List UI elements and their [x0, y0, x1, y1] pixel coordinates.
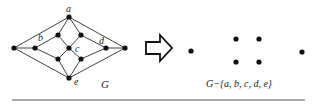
isolated-vertex — [299, 49, 304, 54]
isolated-vertex — [233, 59, 238, 64]
vertex-c — [66, 45, 71, 50]
isolated-vertex — [188, 48, 193, 53]
vertex-upper-left — [55, 32, 60, 37]
isolated-vertex — [233, 36, 238, 41]
label-c: c — [75, 43, 80, 54]
vertex-lower-left — [55, 56, 60, 61]
vertex-a — [66, 14, 71, 19]
caption-g-minus-set: G−{a, b, c, d, e} — [206, 78, 272, 89]
vertex-lower-right — [78, 56, 83, 61]
graph-g-minus-vertices — [188, 36, 304, 64]
label-b: b — [38, 32, 43, 43]
isolated-vertex — [256, 36, 261, 41]
caption-g: G — [101, 78, 109, 90]
vertex-b — [32, 45, 37, 50]
vertex-right-outer — [122, 45, 127, 50]
vertex-e — [66, 75, 71, 80]
label-e: e — [74, 76, 79, 87]
graph-deletion-diagram: a b c d e G G−{a, b, c, d, e} — [0, 0, 315, 106]
vertex-d — [103, 45, 108, 50]
vertex-left-outer — [11, 45, 16, 50]
isolated-vertex — [256, 59, 261, 64]
right-arrow-icon — [146, 35, 172, 61]
label-a: a — [66, 3, 71, 14]
vertex-upper-right — [78, 32, 83, 37]
